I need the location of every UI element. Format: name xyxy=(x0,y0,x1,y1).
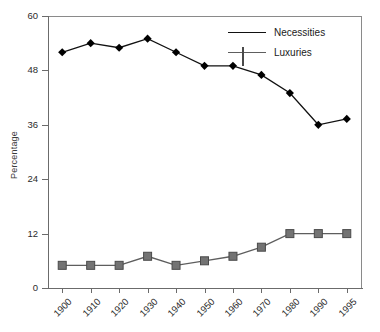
data-point[interactable] xyxy=(144,252,152,260)
data-point[interactable] xyxy=(115,261,123,269)
legend-item-necessities[interactable]: Necessities xyxy=(228,22,325,42)
data-point[interactable] xyxy=(172,48,180,56)
data-point[interactable] xyxy=(229,252,237,260)
legend-swatch-luxuries xyxy=(228,47,266,57)
data-point[interactable] xyxy=(143,35,151,43)
data-point[interactable] xyxy=(200,62,208,70)
data-point[interactable] xyxy=(229,62,237,70)
square-marker-icon xyxy=(242,47,244,66)
legend-item-luxuries[interactable]: Luxuries xyxy=(228,42,325,62)
legend-swatch-necessities xyxy=(228,27,266,37)
data-point[interactable] xyxy=(172,261,180,269)
data-point[interactable] xyxy=(201,257,209,265)
data-point[interactable] xyxy=(286,230,294,238)
legend: Necessities Luxuries xyxy=(228,22,325,62)
data-point[interactable] xyxy=(343,230,351,238)
data-point[interactable] xyxy=(87,261,95,269)
data-point[interactable] xyxy=(58,48,66,56)
line-chart: Percentage 01224364860 19001910192019301… xyxy=(0,0,380,332)
data-point[interactable] xyxy=(343,115,351,123)
data-point[interactable] xyxy=(58,261,66,269)
legend-label-luxuries: Luxuries xyxy=(274,47,312,58)
data-point[interactable] xyxy=(257,243,265,251)
data-point[interactable] xyxy=(314,230,322,238)
data-point[interactable] xyxy=(115,44,123,52)
legend-label-necessities: Necessities xyxy=(274,27,325,38)
data-point[interactable] xyxy=(87,39,95,47)
data-point[interactable] xyxy=(257,71,265,79)
